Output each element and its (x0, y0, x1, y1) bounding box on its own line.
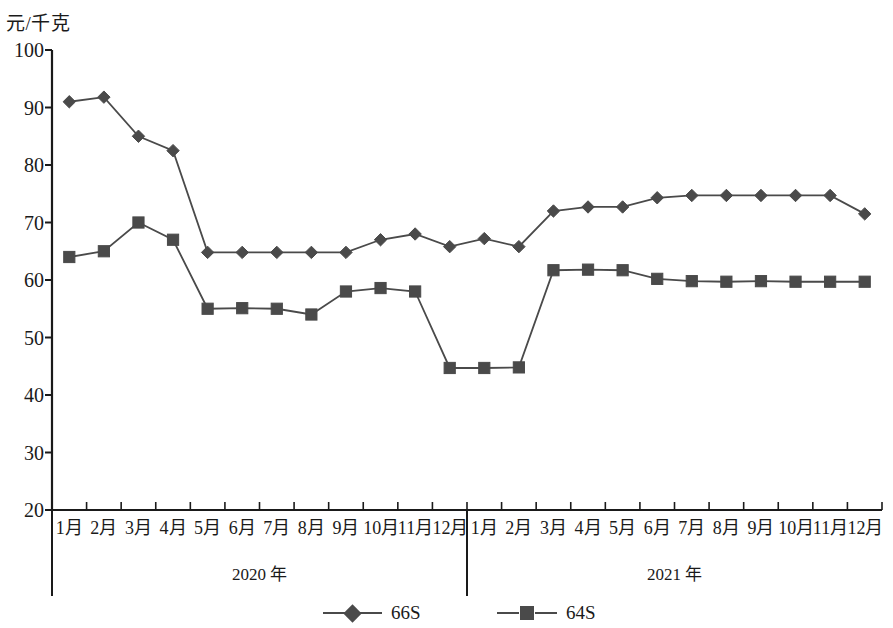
data-point-66s-6 (271, 246, 283, 258)
data-point-66s-10 (409, 228, 421, 240)
y-axis-tick-label: 40 (0, 385, 44, 405)
y-axis-tick-label: 100 (0, 40, 44, 60)
data-point-66s-15 (582, 201, 594, 213)
x-axis-tick-label: 5月 (605, 518, 640, 538)
chart-legend: 66S 64S (0, 598, 893, 628)
x-axis-tick-label: 10月 (778, 518, 813, 538)
x-axis-tick-label: 11月 (398, 518, 433, 538)
x-axis-tick-label: 1月 (52, 518, 87, 538)
x-axis-tick-label: 3月 (121, 518, 156, 538)
x-axis-tick-label: 12月 (432, 518, 467, 538)
y-axis-tick-label: 90 (0, 98, 44, 118)
data-point-66s-23 (859, 208, 871, 220)
data-point-64s-5 (237, 303, 248, 314)
x-axis-tick-label: 3月 (536, 518, 571, 538)
legend-label-66s: 66S (391, 602, 421, 624)
x-axis-tick-label: 4月 (156, 518, 191, 538)
data-point-66s-7 (305, 246, 317, 258)
y-axis-tick-label: 70 (0, 213, 44, 233)
x-axis-tick-label: 10月 (363, 518, 398, 538)
data-point-66s-16 (616, 201, 628, 213)
data-point-64s-4 (202, 303, 213, 314)
x-axis-tick-label: 8月 (294, 518, 329, 538)
data-point-66s-17 (651, 192, 663, 204)
data-point-66s-12 (478, 232, 490, 244)
x-axis-tick-label: 4月 (571, 518, 606, 538)
data-point-64s-0 (64, 251, 75, 262)
data-point-64s-16 (617, 265, 628, 276)
data-point-66s-11 (444, 240, 456, 252)
data-point-64s-3 (167, 234, 178, 245)
x-axis-tick-label: 12月 (847, 518, 882, 538)
legend-item-66s: 66S (323, 598, 421, 628)
x-axis-tick-label: 5月 (190, 518, 225, 538)
data-point-64s-11 (444, 362, 455, 373)
data-point-64s-21 (790, 276, 801, 287)
x-axis-tick-label: 2月 (502, 518, 537, 538)
data-point-64s-7 (306, 309, 317, 320)
data-point-64s-2 (133, 217, 144, 228)
data-point-66s-5 (236, 246, 248, 258)
legend-line-64s-right (535, 612, 557, 614)
data-point-64s-14 (548, 265, 559, 276)
data-point-64s-15 (582, 264, 593, 275)
data-point-64s-6 (271, 303, 282, 314)
data-point-66s-8 (340, 246, 352, 258)
data-point-64s-20 (755, 276, 766, 287)
price-trend-chart: 元/千克 1009080706050403020 1月2月3月4月5月6月7月8… (0, 0, 893, 628)
data-point-66s-21 (789, 189, 801, 201)
data-point-64s-1 (98, 246, 109, 257)
y-axis-tick-label: 30 (0, 443, 44, 463)
data-point-64s-23 (859, 276, 870, 287)
legend-line-66s (323, 612, 345, 614)
x-axis-tick-label: 7月 (675, 518, 710, 538)
year-group-label: 2020 年 (180, 565, 340, 585)
data-point-66s-22 (824, 189, 836, 201)
y-axis-tick-label: 20 (0, 500, 44, 520)
x-axis-tick-label: 6月 (640, 518, 675, 538)
year-group-label: 2021 年 (595, 565, 755, 585)
data-point-64s-17 (652, 273, 663, 284)
x-axis-tick-label: 11月 (813, 518, 848, 538)
data-point-66s-4 (201, 246, 213, 258)
legend-line-66s-right (360, 612, 382, 614)
x-axis-tick-label: 6月 (225, 518, 260, 538)
legend-label-64s: 64S (566, 602, 596, 624)
square-marker-icon (520, 606, 534, 620)
series-line-64s (69, 223, 864, 368)
x-axis-tick-label: 8月 (709, 518, 744, 538)
y-axis-tick-label: 50 (0, 328, 44, 348)
data-point-64s-9 (375, 282, 386, 293)
data-point-64s-18 (686, 276, 697, 287)
data-point-66s-9 (374, 234, 386, 246)
data-point-66s-20 (755, 189, 767, 201)
data-point-66s-19 (720, 189, 732, 201)
data-point-66s-0 (63, 96, 75, 108)
series-line-66s (69, 97, 864, 252)
data-point-66s-3 (167, 144, 179, 156)
y-axis-tick-label: 80 (0, 155, 44, 175)
x-axis-tick-label: 7月 (260, 518, 295, 538)
data-point-66s-18 (686, 189, 698, 201)
diamond-marker-icon (343, 604, 361, 622)
data-point-64s-8 (340, 286, 351, 297)
legend-line-64s (497, 612, 519, 614)
y-axis-tick-label: 60 (0, 270, 44, 290)
data-point-64s-19 (721, 276, 732, 287)
data-point-64s-22 (825, 276, 836, 287)
legend-item-64s: 64S (497, 598, 596, 628)
data-point-64s-13 (513, 362, 524, 373)
data-point-64s-12 (479, 362, 490, 373)
x-axis-tick-label: 9月 (329, 518, 364, 538)
x-axis-tick-label: 1月 (467, 518, 502, 538)
x-axis-tick-label: 2月 (87, 518, 122, 538)
data-point-64s-10 (410, 286, 421, 297)
x-axis-tick-label: 9月 (744, 518, 779, 538)
